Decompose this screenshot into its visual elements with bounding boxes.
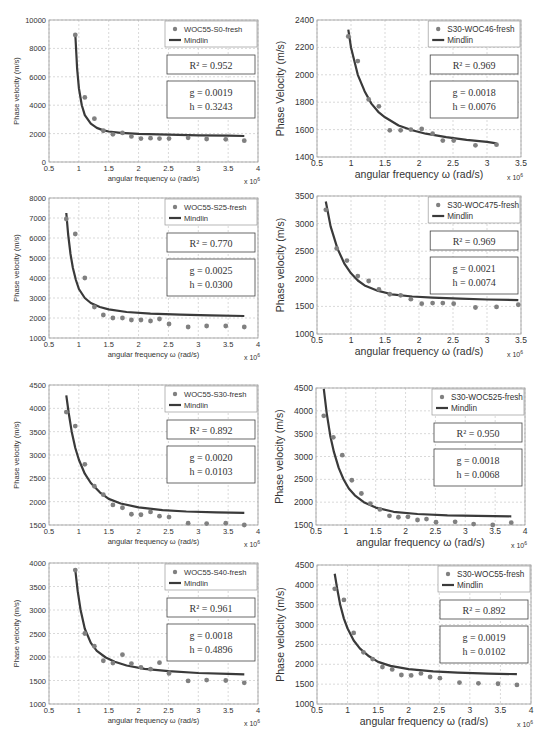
x-tick-label: 1	[77, 164, 81, 173]
chart-canvas: 0.511.522.533.540200040006000800010000an…	[0, 0, 538, 741]
y-tick-label: 7000	[29, 214, 46, 223]
data-point-marker	[408, 297, 413, 302]
chart-panel-p2: 0.511.522.533.5140016001800200022002400a…	[274, 15, 527, 181]
data-point-marker	[457, 680, 462, 685]
x-tick-label: 1.5	[103, 340, 113, 349]
figure-grid: 0.511.522.533.540200040006000800010000an…	[0, 0, 538, 741]
y-tick-label: 1500	[295, 301, 314, 311]
x-multiplier-exponent: 6	[257, 539, 260, 545]
data-point-marker	[380, 665, 385, 670]
param-h-value: h = 0.4896	[189, 644, 232, 655]
x-tick-label: 2.5	[447, 335, 459, 345]
y-tick-label: 6000	[29, 73, 46, 82]
y-axis-label: Phase velocity (m/s)	[273, 409, 285, 504]
data-point-marker	[473, 143, 478, 148]
data-point-marker	[366, 97, 371, 102]
x-tick-label: 2.5	[163, 340, 173, 349]
r2-value: R² = 0.892	[463, 605, 506, 616]
x-tick-label: 4	[256, 706, 260, 715]
legend-label-model: Mindlin	[184, 36, 208, 45]
x-tick-label: 3	[196, 527, 200, 536]
legend: WOC55-S0-freshMindlin	[165, 21, 257, 47]
x-tick-label: 3	[196, 340, 200, 349]
data-point-marker	[92, 484, 97, 489]
legend-label-data: WOC55-S40-fresh	[184, 568, 246, 577]
data-point-marker	[332, 586, 337, 591]
data-point-marker	[349, 478, 354, 483]
chart-panel-p3: 0.511.522.533.54100020003000400050006000…	[12, 194, 260, 361]
param-g-value: g = 0.0018	[453, 87, 496, 98]
x-tick-label: 2.5	[163, 164, 173, 173]
x-tick-label: 3	[196, 706, 200, 715]
r2-value: R² = 0.961	[190, 603, 233, 614]
data-point-marker	[430, 131, 435, 136]
data-point-marker	[494, 142, 499, 147]
param-h-value: h = 0.0103	[189, 466, 232, 477]
y-tick-label: 3000	[294, 452, 313, 462]
data-point-marker	[409, 673, 414, 678]
legend-label-model: Mindlin	[447, 36, 473, 45]
param-g-value: g = 0.0018	[189, 630, 232, 641]
legend-marker-icon	[173, 570, 177, 574]
x-multiplier-exponent: 6	[530, 719, 533, 725]
data-point-marker	[157, 660, 162, 665]
x-multiplier-label: x 106	[244, 176, 260, 185]
data-point-marker	[370, 657, 375, 662]
data-point-marker	[129, 318, 134, 323]
data-point-marker	[390, 667, 395, 672]
data-point-marker	[139, 512, 144, 517]
y-tick-label: 3000	[29, 451, 46, 460]
legend-marker-icon	[440, 395, 444, 399]
data-point-marker	[451, 138, 456, 143]
legend-label-model: Mindlin	[447, 212, 473, 221]
data-point-marker	[167, 136, 172, 141]
x-tick-label: 1.5	[372, 705, 384, 715]
y-tick-label: 2000	[294, 497, 313, 507]
y-tick-label: 1500	[29, 521, 46, 530]
x-tick-label: 1	[345, 705, 350, 715]
param-g-value: g = 0.0021	[453, 263, 496, 274]
x-tick-label: 3.5	[223, 340, 233, 349]
y-tick-label: 3500	[29, 583, 46, 592]
x-tick-label: 4	[529, 705, 534, 715]
y-tick-label: 2000	[295, 70, 314, 80]
x-tick-label: 1	[77, 706, 81, 715]
data-point-marker	[368, 501, 373, 506]
x-tick-label: 2.5	[433, 705, 445, 715]
y-tick-label: 2000	[29, 314, 46, 323]
data-point-marker	[139, 665, 144, 670]
legend: WOC55-S40-freshMindlin	[165, 564, 257, 590]
param-g-value: g = 0.0019	[462, 632, 505, 643]
legend-label-model: Mindlin	[184, 579, 208, 588]
data-point-marker	[167, 322, 172, 327]
data-point-marker	[366, 279, 371, 284]
x-multiplier-label: x 106	[507, 349, 523, 358]
data-point-marker	[242, 325, 247, 330]
data-point-marker	[223, 678, 228, 683]
y-axis-label: Phase velocity (m/s)	[12, 421, 21, 489]
x-tick-label: 2	[136, 527, 140, 536]
legend-marker-icon	[173, 27, 177, 31]
y-tick-label: 1600	[295, 125, 314, 135]
legend: S30-WOC525-freshMindlin	[432, 389, 524, 415]
y-tick-label: 2000	[295, 274, 314, 284]
data-point-marker	[204, 324, 209, 329]
x-tick-label: 3.5	[495, 705, 507, 715]
param-g-value: g = 0.0025	[189, 265, 232, 276]
data-point-marker	[377, 507, 382, 512]
data-point-marker	[473, 305, 478, 310]
data-point-marker	[331, 435, 336, 440]
legend: WOC55-S25-freshMindlin	[165, 199, 257, 225]
data-point-marker	[204, 137, 209, 142]
data-point-marker	[361, 650, 366, 655]
x-tick-label: 3	[485, 335, 490, 345]
x-multiplier-exponent: 6	[257, 176, 260, 182]
y-axis-label: Phase velocity (m/s)	[274, 218, 286, 313]
x-tick-label: 1	[77, 527, 81, 536]
y-tick-label: 3500	[295, 191, 314, 201]
x-tick-label: 4	[523, 526, 528, 536]
data-point-marker	[242, 523, 247, 528]
y-tick-label: 6000	[29, 234, 46, 243]
x-tick-label: 3.5	[515, 158, 527, 168]
data-point-marker	[148, 510, 153, 515]
